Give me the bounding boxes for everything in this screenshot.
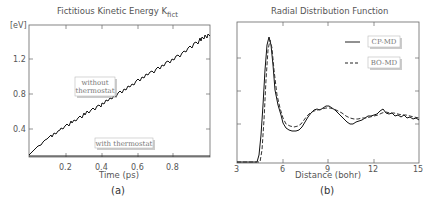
- svg-text:with thermostat: with thermostat: [96, 140, 153, 148]
- chart-a-ytick-0.4: 0.4: [13, 125, 26, 134]
- chart-b-legend: CP-MD BO-MD: [345, 36, 402, 70]
- chart-a-title: Fictitious Kinetic Energy Kfict: [57, 6, 178, 19]
- legend-item-cp-md: CP-MD: [345, 36, 402, 49]
- chart-a-y-ticks: [29, 59, 210, 129]
- chart-a-ytick-0.8: 0.8: [13, 90, 26, 99]
- chart-b-xtick-15: 15: [413, 165, 423, 174]
- chart-b-xtick-3: 3: [234, 165, 239, 174]
- chart-b-xlabel: Distance (bohr): [295, 170, 361, 180]
- chart-a-ytick-1.2: 1.2: [13, 55, 26, 64]
- annotation-with-thermostat: with thermostat: [95, 138, 155, 150]
- chart-a: Fictitious Kinetic Energy Kfict [eV] 1.2…: [10, 6, 210, 196]
- figure: Fictitious Kinetic Energy Kfict [eV] 1.2…: [0, 0, 428, 209]
- chart-b-xtick-12: 12: [368, 165, 378, 174]
- chart-a-series-without-thermostat: [29, 34, 210, 155]
- chart-a-ylabel: [eV]: [10, 21, 27, 30]
- chart-b-caption: (b): [320, 185, 334, 196]
- svg-text:BO-MD: BO-MD: [371, 59, 398, 67]
- svg-text:CP-MD: CP-MD: [372, 38, 397, 46]
- chart-b-series-cp-md: [237, 37, 419, 162]
- chart-b-xtick-6: 6: [280, 165, 285, 174]
- chart-a-xlabel: Time (ps): [98, 170, 139, 180]
- chart-a-caption: (a): [111, 185, 125, 196]
- chart-b-title: Radial Distribution Function: [271, 6, 388, 16]
- legend-item-bo-md: BO-MD: [345, 57, 402, 70]
- chart-a-xtick-0.2: 0.2: [59, 163, 72, 172]
- svg-text:without: without: [81, 79, 108, 87]
- chart-b: Radial Distribution Function 3 6 9 12 15…: [234, 6, 423, 196]
- chart-a-xtick-0.8: 0.8: [166, 163, 179, 172]
- annotation-without-thermostat: without thermostat: [75, 77, 117, 98]
- svg-text:thermostat: thermostat: [75, 87, 114, 95]
